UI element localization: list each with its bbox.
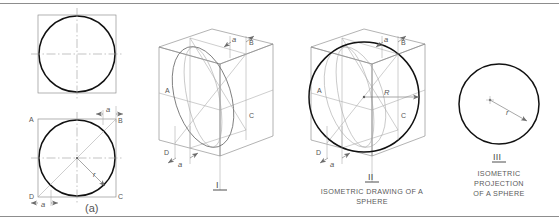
iso2-dim-arrow-bottom-right [342, 153, 350, 158]
label-dim-a-top-panel-i: a [232, 35, 236, 44]
caption-panel-ii-line2: SPHERE [356, 197, 388, 206]
label-radius-R-panel-ii: R [384, 88, 390, 97]
iso1-dim-arrow-bottom-right [190, 153, 198, 158]
caption-panel-iii-line2: PROJECTION [474, 179, 524, 188]
caption-panel-ii-line1: ISOMETRIC DRAWING OF A [321, 187, 423, 196]
panel-a-top-view [31, 8, 123, 100]
iso2-dim-arrow-bottom-left [320, 158, 328, 163]
label-dim-a-bottom-panel-ii: a [330, 160, 334, 169]
label-point-C-panel-ii: C [401, 112, 406, 119]
label-radius-r-panel-a: r [93, 170, 96, 179]
iso2-mid-horizontal-left [311, 93, 372, 110]
panel-ii-isometric-drawing-sphere: A B D C a a R II ISOMETRIC DRAWING OF A … [309, 29, 425, 206]
panel-iii-isometric-projection-sphere: r III ISOMETRIC PROJECTION OF A SPHERE [459, 64, 539, 198]
label-dim-a-top-panel-ii: a [384, 35, 388, 44]
iso3-sphere-circle [459, 64, 539, 144]
label-point-A-panel-ii: A [317, 87, 322, 94]
label-point-C-panel-a: C [118, 193, 123, 200]
caption-panel-iii-line1: ISOMETRIC [477, 169, 520, 178]
label-point-B-panel-ii: B [401, 39, 406, 46]
iso1-dim-arrow-bottom-left [168, 158, 176, 163]
label-point-D-panel-a: D [29, 193, 34, 200]
label-dim-a-top-panel-a: a [106, 105, 110, 114]
iso3-radius-leader [490, 100, 527, 121]
label-point-B-panel-a: B [118, 117, 123, 124]
caption-panel-i: I [216, 180, 219, 190]
panel-i-isometric-box: A B D C a a I [159, 29, 273, 190]
caption-panel-ii: II [368, 172, 374, 182]
front-view-center-dot [76, 157, 78, 159]
front-view-radius-leader [77, 158, 105, 186]
label-point-D-panel-ii: D [316, 149, 321, 156]
label-radius-r-panel-iii: r [506, 108, 509, 117]
technical-drawing-canvas: A B D C a a r (a) [0, 0, 559, 224]
label-dim-a-bottom-panel-a: a [41, 200, 45, 209]
panel-a-front-view: A B D C a a r (a) [29, 105, 123, 214]
label-point-A-panel-i: A [165, 87, 170, 94]
label-dim-a-bottom-panel-i: a [178, 160, 182, 169]
iso1-mid-horizontal-left [159, 93, 220, 110]
label-point-C-panel-i: C [249, 112, 254, 119]
figure-page: A B D C a a r (a) [0, 0, 559, 224]
label-point-A-panel-a: A [29, 116, 34, 123]
caption-panel-a: (a) [85, 202, 98, 214]
caption-panel-iii: III [493, 152, 501, 162]
caption-panel-iii-line3: OF A SPHERE [473, 189, 524, 198]
label-point-D-panel-i: D [164, 149, 169, 156]
label-point-B-panel-i: B [249, 39, 254, 46]
